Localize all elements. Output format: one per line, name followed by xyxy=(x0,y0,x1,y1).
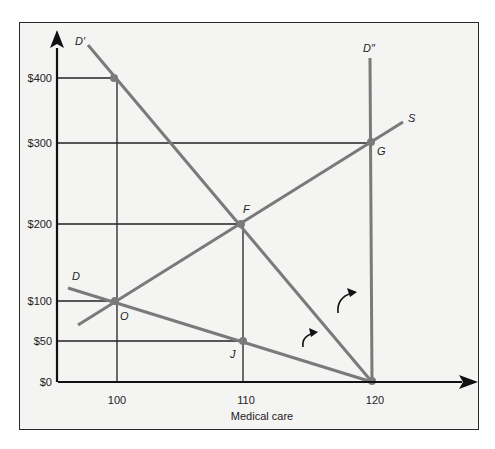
demand-curve-d-prime xyxy=(88,45,372,382)
y-tick-50: $50 xyxy=(34,335,52,347)
rotation-arrows xyxy=(303,293,352,347)
y-tick-400: $400 xyxy=(28,72,52,84)
y-tick-0: $0 xyxy=(40,376,52,388)
guide-lines xyxy=(58,78,371,382)
label-s: S xyxy=(408,112,416,124)
chart-svg: $400 $300 $200 $100 $50 $0 100 110 120 M… xyxy=(0,0,495,449)
x-tick-110: 110 xyxy=(237,394,255,406)
label-point-j: J xyxy=(229,348,236,360)
demand-curve-d-double-prime xyxy=(370,58,372,382)
label-d-prime: D′ xyxy=(75,35,86,47)
y-tick-100: $100 xyxy=(28,295,52,307)
x-tick-120: 120 xyxy=(366,394,384,406)
x-axis-label: Medical care xyxy=(231,410,293,422)
label-point-f: F xyxy=(243,203,251,215)
y-tick-300: $300 xyxy=(28,137,52,149)
label-point-g: G xyxy=(377,145,386,157)
label-point-o: O xyxy=(120,310,129,322)
label-d: D xyxy=(72,270,80,282)
x-tick-100: 100 xyxy=(108,394,126,406)
label-d-double-prime: D″ xyxy=(363,42,376,54)
y-axis-arrow-icon xyxy=(50,30,64,48)
y-tick-200: $200 xyxy=(28,218,52,230)
